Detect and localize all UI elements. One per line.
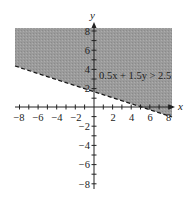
x-tick-labels: −8 −6 −4 −2 2 4 6 8 — [13, 112, 171, 123]
svg-text:4: 4 — [129, 112, 135, 123]
svg-text:−8: −8 — [13, 112, 24, 123]
inequality-graph: x −8 −6 −4 −2 2 4 6 8 — [0, 0, 192, 203]
svg-text:2: 2 — [85, 83, 90, 94]
svg-text:8: 8 — [166, 112, 171, 123]
svg-text:−4: −4 — [79, 140, 91, 151]
svg-text:6: 6 — [85, 45, 90, 56]
svg-text:−6: −6 — [79, 159, 90, 170]
x-axis-label: x — [177, 100, 183, 112]
svg-text:−8: −8 — [79, 179, 90, 190]
svg-text:6: 6 — [147, 112, 152, 123]
y-axis-label: y — [89, 9, 95, 21]
svg-text:−2: −2 — [79, 121, 90, 132]
inequality-label: 0.5x + 1.5y > 2.5 — [99, 70, 171, 81]
svg-text:−4: −4 — [51, 112, 63, 123]
svg-text:2: 2 — [110, 112, 115, 123]
svg-text:8: 8 — [85, 26, 90, 37]
svg-text:4: 4 — [85, 64, 91, 75]
svg-text:−6: −6 — [32, 112, 43, 123]
